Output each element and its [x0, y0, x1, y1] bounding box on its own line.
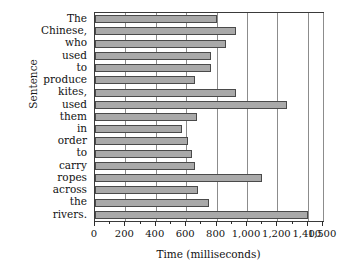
gridline: [323, 13, 324, 221]
x-axis-major-tick: [216, 221, 217, 226]
horizontal-bar-chart: Sentence TheChinese,whousedtoproducekite…: [0, 0, 360, 276]
bar: [95, 199, 209, 207]
bar: [95, 186, 198, 194]
x-axis-major-tick: [246, 221, 247, 226]
bar: [95, 64, 211, 72]
plot-area: [94, 12, 324, 222]
x-axis-minor-tick: [140, 221, 141, 224]
bar-row: [95, 74, 323, 86]
x-axis-tick-label: 800: [206, 228, 225, 239]
x-axis-minor-tick: [292, 221, 293, 224]
bar: [95, 27, 236, 35]
bar-row: [95, 37, 323, 49]
bar-row: [95, 148, 323, 160]
y-axis-tick-label: them: [22, 110, 90, 122]
y-axis-tick-labels: TheChinese,whousedtoproducekites,usedthe…: [22, 12, 90, 220]
x-axis-minor-tick: [261, 221, 262, 224]
bar: [95, 150, 192, 158]
bar: [95, 76, 195, 84]
bar-row: [95, 184, 323, 196]
bar: [95, 174, 262, 182]
x-axis-tick-label: 1,000: [232, 228, 261, 239]
x-axis-major-tick: [307, 221, 308, 226]
x-axis-major-tick: [276, 221, 277, 226]
y-axis-tick-label: carry: [22, 159, 90, 171]
x-axis-title: Time (milliseconds): [94, 248, 323, 260]
bar-row: [95, 13, 323, 25]
x-axis-tick-label: 1,500: [308, 228, 337, 239]
y-axis-tick-label: used: [22, 49, 90, 61]
bar: [95, 125, 182, 133]
bar: [95, 211, 308, 219]
bar-series: [95, 13, 323, 221]
y-axis-tick-label: the: [22, 196, 90, 208]
y-axis-tick-label: used: [22, 98, 90, 110]
y-axis-tick-label: produce: [22, 73, 90, 85]
bar-row: [95, 50, 323, 62]
bar-row: [95, 99, 323, 111]
bar-row: [95, 123, 323, 135]
y-axis-tick-label: kites,: [22, 85, 90, 97]
bar-row: [95, 197, 323, 209]
bar-row: [95, 86, 323, 98]
bar-row: [95, 160, 323, 172]
bar-row: [95, 25, 323, 37]
x-axis-tick-label: 1,200: [262, 228, 291, 239]
bar: [95, 89, 236, 97]
x-axis-tick-label: 200: [115, 228, 134, 239]
bar-row: [95, 209, 323, 221]
bar: [95, 113, 197, 121]
bar-row: [95, 172, 323, 184]
bar: [95, 40, 226, 48]
y-axis-tick-label: order: [22, 134, 90, 146]
y-axis-tick-label: to: [22, 147, 90, 159]
bar-row: [95, 111, 323, 123]
x-axis-major-tick: [94, 221, 95, 226]
y-axis-tick-label: to: [22, 61, 90, 73]
x-axis-minor-tick: [170, 221, 171, 224]
x-axis-tick-label: 400: [145, 228, 164, 239]
y-axis-tick-label: Chinese,: [22, 24, 90, 36]
y-axis-tick-label: across: [22, 183, 90, 195]
bar: [95, 15, 217, 23]
x-axis-major-tick: [322, 221, 323, 226]
y-axis-tick-label: ropes: [22, 171, 90, 183]
bar: [95, 52, 211, 60]
x-axis-major-tick: [185, 221, 186, 226]
y-axis-tick-label: The: [22, 12, 90, 24]
bar: [95, 162, 195, 170]
x-axis-tick-label: 0: [91, 228, 97, 239]
bar: [95, 101, 287, 109]
x-axis-major-tick: [155, 221, 156, 226]
x-axis-minor-tick: [109, 221, 110, 224]
x-axis-major-tick: [124, 221, 125, 226]
y-axis-tick-label: who: [22, 36, 90, 48]
x-axis-tick-labels: 02004006008001,0001,2001,4001,500: [94, 228, 323, 242]
x-axis-minor-tick: [200, 221, 201, 224]
y-axis-tick-label: rivers.: [22, 208, 90, 220]
bar-row: [95, 135, 323, 147]
y-axis-tick-label: in: [22, 122, 90, 134]
x-axis-minor-tick: [231, 221, 232, 224]
bar-row: [95, 62, 323, 74]
bar: [95, 137, 188, 145]
x-axis-tick-label: 600: [176, 228, 195, 239]
